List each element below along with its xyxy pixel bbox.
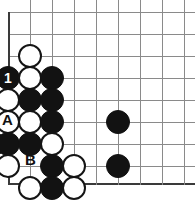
grid-line-horizontal — [8, 34, 195, 35]
go-stone-black — [40, 176, 64, 200]
go-stone-white — [40, 132, 64, 156]
grid-line-horizontal — [8, 166, 195, 167]
grid-line-vertical — [96, 0, 97, 185]
go-stone-black — [40, 88, 64, 112]
go-stone-black — [18, 88, 42, 112]
go-stone-white — [18, 66, 42, 90]
go-stone-black: 1 — [0, 66, 20, 90]
go-stone-black — [106, 110, 130, 134]
point-label-b: B — [25, 152, 36, 167]
go-stone-white — [62, 176, 86, 200]
go-stone-white — [18, 44, 42, 68]
go-stone-black — [0, 132, 20, 156]
go-stone-white — [0, 154, 20, 178]
go-stone-black — [40, 154, 64, 178]
move-number-label: 1 — [0, 67, 19, 89]
go-stone-white — [62, 154, 86, 178]
go-board-diagram: 1 AB — [0, 0, 195, 201]
go-stone-white — [18, 110, 42, 134]
go-stone-black — [40, 66, 64, 90]
go-stone-black — [106, 154, 130, 178]
go-stone-black — [40, 110, 64, 134]
go-stone-white — [0, 88, 20, 112]
grid-line-vertical — [162, 0, 163, 185]
go-stone-white — [18, 176, 42, 200]
grid-line-horizontal — [8, 12, 195, 13]
point-label-a: A — [2, 112, 13, 127]
grid-line-vertical — [184, 0, 185, 185]
grid-line-vertical — [140, 0, 141, 185]
